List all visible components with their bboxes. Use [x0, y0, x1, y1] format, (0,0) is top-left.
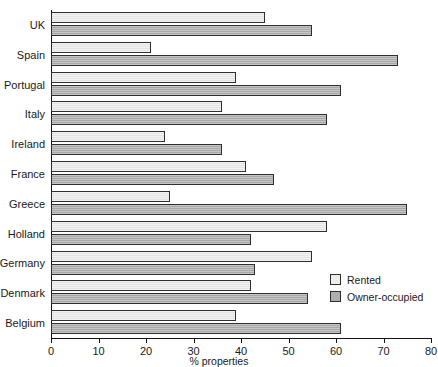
legend-swatch-owner-icon — [330, 291, 341, 302]
bar-italy-owner-occupied — [51, 114, 327, 125]
bar-denmark-rented — [51, 280, 251, 291]
bar-germany-rented — [51, 251, 312, 262]
bar-greece-rented — [51, 191, 170, 202]
category-label-denmark: Denmark — [0, 288, 45, 299]
bar-group — [51, 191, 431, 219]
x-tick-70 — [384, 338, 385, 343]
bar-portugal-owner-occupied — [51, 85, 341, 96]
x-tick-20 — [146, 338, 147, 343]
bar-france-rented — [51, 161, 246, 172]
legend-label: Owner-occupied — [347, 291, 423, 303]
category-label-italy: Italy — [0, 109, 45, 120]
bar-france-owner-occupied — [51, 174, 274, 185]
category-label-belgium: Belgium — [0, 318, 45, 329]
bar-uk-rented — [51, 12, 265, 23]
bar-group — [51, 12, 431, 40]
bar-spain-rented — [51, 42, 151, 53]
x-tick-30 — [194, 338, 195, 343]
x-tick-80 — [431, 338, 432, 343]
legend-swatch-rented-icon — [330, 274, 341, 285]
bar-germany-owner-occupied — [51, 264, 255, 275]
category-label-greece: Greece — [0, 199, 45, 210]
x-tick-60 — [336, 338, 337, 343]
bar-ireland-owner-occupied — [51, 144, 222, 155]
bar-group — [51, 161, 431, 189]
x-tick-0 — [51, 338, 52, 343]
x-axis-title: % properties — [0, 356, 438, 367]
legend-label: Rented — [347, 274, 381, 286]
category-label-spain: Spain — [0, 50, 45, 61]
bar-group — [51, 221, 431, 249]
bar-group — [51, 42, 431, 70]
bar-group — [51, 101, 431, 129]
bar-belgium-owner-occupied — [51, 323, 341, 334]
bar-denmark-owner-occupied — [51, 293, 308, 304]
category-label-ireland: Ireland — [0, 139, 45, 150]
bar-ireland-rented — [51, 131, 165, 142]
bar-italy-rented — [51, 101, 222, 112]
bar-group — [51, 131, 431, 159]
bar-holland-owner-occupied — [51, 234, 251, 245]
category-label-uk: UK — [0, 20, 45, 31]
bar-portugal-rented — [51, 72, 236, 83]
category-label-portugal: Portugal — [0, 80, 45, 91]
bar-spain-owner-occupied — [51, 55, 398, 66]
legend-item-rented: Rented — [330, 272, 423, 287]
category-label-holland: Holland — [0, 229, 45, 240]
x-tick-40 — [241, 338, 242, 343]
legend: RentedOwner-occupied — [330, 272, 423, 306]
bar-greece-owner-occupied — [51, 204, 407, 215]
x-tick-50 — [289, 338, 290, 343]
legend-item-owner: Owner-occupied — [330, 289, 423, 304]
x-tick-10 — [99, 338, 100, 343]
bar-holland-rented — [51, 221, 327, 232]
bar-group — [51, 310, 431, 338]
category-label-germany: Germany — [0, 258, 45, 269]
bar-uk-owner-occupied — [51, 25, 312, 36]
bar-group — [51, 72, 431, 100]
category-label-france: France — [0, 169, 45, 180]
bar-belgium-rented — [51, 310, 236, 321]
